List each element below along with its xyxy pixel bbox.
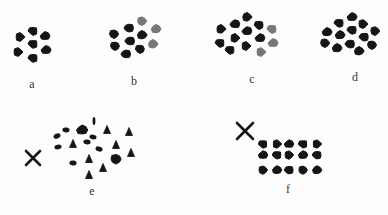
sliver-shape <box>93 117 96 125</box>
figure-canvas <box>0 0 388 215</box>
panel-label-f: f <box>286 183 290 195</box>
panel-label-b: b <box>131 75 137 87</box>
panel-label-e: e <box>89 185 94 197</box>
dot <box>110 30 119 39</box>
panel-label-d: d <box>352 71 358 83</box>
dot <box>111 42 120 50</box>
dot <box>125 37 135 45</box>
dot <box>368 41 377 50</box>
panel-label-a: a <box>29 78 34 90</box>
panel-label-c: c <box>249 73 254 85</box>
